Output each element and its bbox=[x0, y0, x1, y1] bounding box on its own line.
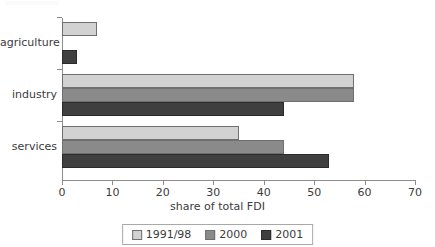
y-axis-label-agriculture: agriculture bbox=[0, 36, 57, 49]
x-tick-40 bbox=[264, 180, 265, 185]
x-tick-label-10: 10 bbox=[105, 186, 119, 199]
bar-industry-2000 bbox=[62, 88, 354, 102]
x-tick-0 bbox=[62, 180, 63, 185]
legend-swatch-2000-icon bbox=[205, 230, 215, 240]
legend-item-2000: 2000 bbox=[205, 228, 247, 241]
x-tick-70 bbox=[415, 180, 416, 185]
chart-legend: 1991/9820002001 bbox=[122, 224, 314, 245]
bar-agriculture-1991-98 bbox=[62, 22, 97, 36]
x-tick-10 bbox=[112, 180, 113, 185]
y-axis-category-tick bbox=[57, 69, 62, 70]
x-tick-label-30: 30 bbox=[206, 186, 220, 199]
bar-industry-1991-98 bbox=[62, 74, 354, 88]
x-tick-label-60: 60 bbox=[358, 186, 372, 199]
bar-chart: agricultureindustryservices 010203040506… bbox=[0, 0, 435, 247]
x-tick-60 bbox=[365, 180, 366, 185]
legend-swatch-1991-98-icon bbox=[132, 230, 142, 240]
x-tick-label-0: 0 bbox=[59, 186, 66, 199]
x-tick-label-70: 70 bbox=[408, 186, 422, 199]
x-tick-50 bbox=[314, 180, 315, 185]
bar-services-2001 bbox=[62, 154, 329, 168]
x-tick-label-20: 20 bbox=[156, 186, 170, 199]
x-tick-20 bbox=[163, 180, 164, 185]
legend-label-1991-98: 1991/98 bbox=[146, 228, 192, 241]
x-axis-title: share of total FDI bbox=[0, 200, 435, 213]
x-tick-label-50: 50 bbox=[307, 186, 321, 199]
legend-label-2000: 2000 bbox=[219, 228, 247, 241]
scan-artifact bbox=[6, 1, 58, 5]
x-axis-line bbox=[62, 180, 415, 181]
bar-agriculture-2001 bbox=[62, 50, 77, 64]
legend-swatch-2001-icon bbox=[261, 230, 271, 240]
plot-area bbox=[62, 18, 415, 178]
bar-services-2000 bbox=[62, 140, 284, 154]
y-axis-label-services: services bbox=[0, 140, 57, 153]
bar-services-1991-98 bbox=[62, 126, 239, 140]
y-axis-category-tick bbox=[57, 121, 62, 122]
legend-label-2001: 2001 bbox=[275, 228, 303, 241]
x-tick-label-40: 40 bbox=[257, 186, 271, 199]
x-tick-30 bbox=[213, 180, 214, 185]
bar-industry-2001 bbox=[62, 102, 284, 116]
legend-item-1991-98: 1991/98 bbox=[132, 228, 192, 241]
legend-item-2001: 2001 bbox=[261, 228, 303, 241]
y-axis-category-tick bbox=[57, 17, 62, 18]
y-axis-label-industry: industry bbox=[0, 88, 57, 101]
